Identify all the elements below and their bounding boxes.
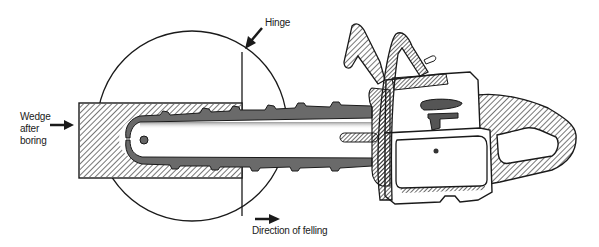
side-cover: [396, 136, 487, 188]
hand-guard: [344, 24, 385, 84]
wedge-label-line-3: boring: [20, 135, 60, 147]
bar-nose-rivet: [140, 136, 148, 144]
direction-of-felling-label: Direction of felling: [252, 225, 327, 237]
wedge-label-line-2: after: [20, 123, 60, 135]
wedge-label-line-1: Wedge: [20, 111, 60, 123]
bore-cut-diagram: [0, 0, 599, 247]
hinge-arrow-icon: [245, 28, 262, 49]
direction-arrow-icon: [255, 214, 280, 224]
chainsaw-body: [344, 24, 576, 204]
hinge-label: Hinge: [265, 17, 290, 29]
wedge-label: Wedge after boring: [20, 111, 60, 147]
